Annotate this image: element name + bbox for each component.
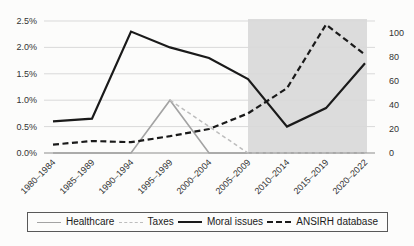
category-label: 2000–2004 xyxy=(174,157,213,196)
legend-item-moral-issues: Moral issues xyxy=(178,217,263,227)
shaded-region xyxy=(248,19,367,153)
chart-canvas: 0.0%0.5%1.0%1.5%2.0%2.5%0204060801001980… xyxy=(0,0,414,210)
left-axis-tick-label: 0.0% xyxy=(16,148,37,158)
legend: Healthcare Taxes Moral issues ANSIRH dat… xyxy=(27,212,388,232)
right-axis-tick-label: 0 xyxy=(389,148,394,158)
legend-item-healthcare: Healthcare xyxy=(37,217,114,227)
legend-label-ansirh-database: ANSIRH database xyxy=(296,217,378,227)
category-label: 2005–2009 xyxy=(213,157,252,196)
left-axis-tick-label: 0.5% xyxy=(16,122,37,132)
legend-item-ansirh-database: ANSIRH database xyxy=(267,217,378,227)
right-axis-tick-label: 60 xyxy=(389,76,399,86)
right-axis-tick-label: 100 xyxy=(389,28,404,38)
category-label: 2020–2022 xyxy=(330,157,369,196)
healthcare-line-sample xyxy=(37,222,61,223)
moral-issues-line-sample xyxy=(178,221,202,223)
legend-label-taxes: Taxes xyxy=(148,217,174,227)
left-axis-tick-label: 2.5% xyxy=(16,16,37,26)
left-axis-tick-label: 1.0% xyxy=(16,95,37,105)
taxes-line-sample xyxy=(119,222,143,223)
right-axis-tick-label: 40 xyxy=(389,100,399,110)
ansirh-database-line-sample xyxy=(267,221,291,223)
right-axis-tick-label: 80 xyxy=(389,52,399,62)
left-axis-tick-label: 2.0% xyxy=(16,42,37,52)
category-label: 1995–1999 xyxy=(135,157,174,196)
category-label: 1985–1989 xyxy=(57,157,96,196)
legend-label-healthcare: Healthcare xyxy=(66,217,114,227)
category-label: 2015–2019 xyxy=(291,157,330,196)
category-label: 2010–2014 xyxy=(252,157,291,196)
left-axis-tick-label: 1.5% xyxy=(16,69,37,79)
category-label: 1990–1994 xyxy=(96,157,135,196)
right-axis-tick-label: 20 xyxy=(389,124,399,134)
line-chart: 0.0%0.5%1.0%1.5%2.0%2.5%0204060801001980… xyxy=(0,0,414,246)
category-label: 1980–1984 xyxy=(18,157,57,196)
legend-item-taxes: Taxes xyxy=(119,217,174,227)
legend-label-moral-issues: Moral issues xyxy=(207,217,263,227)
